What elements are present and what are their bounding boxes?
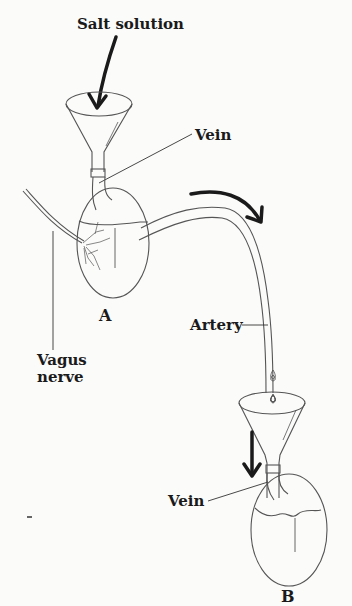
vein-top-label: Vein xyxy=(195,127,231,144)
heart-a xyxy=(77,177,149,298)
salt-solution-label: Salt solution xyxy=(77,16,184,33)
heart-b-label: B xyxy=(281,588,295,605)
heart-b xyxy=(251,473,327,586)
vagus-nerve xyxy=(23,189,84,350)
heart-a-label: A xyxy=(99,307,111,324)
artery-tube xyxy=(139,207,273,393)
vein-top-leader xyxy=(99,134,192,183)
vagus-label-line2: nerve xyxy=(37,369,84,386)
flow-arrow-down xyxy=(244,432,260,476)
artery-label: Artery xyxy=(190,317,243,334)
vagus-label-line1: Vagus xyxy=(37,352,87,369)
heart-experiment-diagram xyxy=(0,0,352,606)
vein-bottom-leader xyxy=(208,482,268,501)
salt-solution-arrow xyxy=(89,37,116,108)
vein-bottom-label: Vein xyxy=(168,493,204,510)
